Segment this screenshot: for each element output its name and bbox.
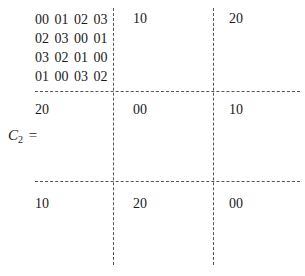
cell-r1-c2: 10 bbox=[133, 12, 147, 26]
matrix-symbol: C bbox=[8, 127, 18, 143]
row-divider-1 bbox=[35, 91, 300, 92]
cell-r2-c1: 20 bbox=[35, 103, 49, 117]
matrix-label: C2 = bbox=[8, 127, 37, 145]
cell-r1-c3: 20 bbox=[229, 12, 243, 26]
cell-r1-c1-block: 00 01 02 03 02 03 00 01 03 02 01 00 01 0… bbox=[35, 10, 108, 86]
cell-r2-c2: 00 bbox=[133, 103, 147, 117]
cell-r2-c3: 10 bbox=[229, 103, 243, 117]
column-divider-2 bbox=[213, 8, 214, 265]
column-divider-1 bbox=[113, 8, 114, 265]
cell-r3-c3: 00 bbox=[229, 197, 243, 211]
equals-sign: = bbox=[29, 127, 37, 143]
cell-r3-c2: 20 bbox=[133, 197, 147, 211]
cell-r3-c1: 10 bbox=[35, 197, 49, 211]
block-row-1: 00 01 02 03 bbox=[35, 10, 108, 29]
block-row-2: 02 03 00 01 bbox=[35, 29, 108, 48]
matrix-subscript: 2 bbox=[18, 134, 23, 145]
row-divider-2 bbox=[35, 181, 300, 182]
block-row-3: 03 02 01 00 bbox=[35, 48, 108, 67]
block-row-4: 01 00 03 02 bbox=[35, 67, 108, 86]
